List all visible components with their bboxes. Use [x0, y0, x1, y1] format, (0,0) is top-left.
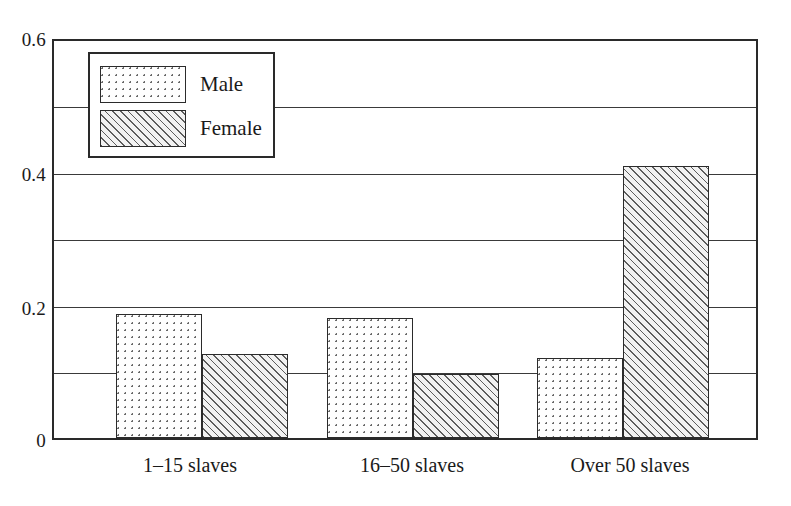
- bar-female-16-50-slaves: [413, 374, 499, 438]
- bar-female-over-50-slaves: [623, 166, 709, 438]
- bar-male-over-50-slaves: [537, 358, 623, 438]
- legend-label-male: Male: [200, 74, 243, 95]
- legend-swatch-female-icon: [100, 110, 186, 147]
- x-tick-label-over-50-slaves: Over 50 slaves: [510, 452, 750, 478]
- plot-area: Male Female: [52, 39, 758, 440]
- legend: Male Female: [88, 52, 275, 158]
- x-tick-label-1-15-slaves: 1–15 slaves: [70, 452, 310, 478]
- x-tick-label-16-50-slaves: 16–50 slaves: [292, 452, 532, 478]
- y-axis-tick-labels: 0.6 0.4 0.2 0: [0, 0, 46, 506]
- legend-item-male: Male: [100, 62, 273, 106]
- y-tick-label-0.4: 0.4: [0, 165, 46, 184]
- bar-chart-figure: 0.6 0.4 0.2 0 Male Female: [0, 0, 791, 506]
- y-tick-label-0.6: 0.6: [0, 30, 46, 49]
- bar-male-16-50-slaves: [327, 318, 413, 438]
- bar-female-1-15-slaves: [202, 354, 288, 438]
- legend-item-female: Female: [100, 106, 273, 150]
- bar-male-1-15-slaves: [116, 314, 202, 438]
- y-tick-label-0.2: 0.2: [0, 299, 46, 318]
- legend-label-female: Female: [200, 118, 262, 139]
- y-tick-label-0: 0: [0, 431, 46, 450]
- x-axis-tick-labels: 1–15 slaves 16–50 slaves Over 50 slaves: [0, 452, 791, 492]
- legend-swatch-male-icon: [100, 66, 186, 103]
